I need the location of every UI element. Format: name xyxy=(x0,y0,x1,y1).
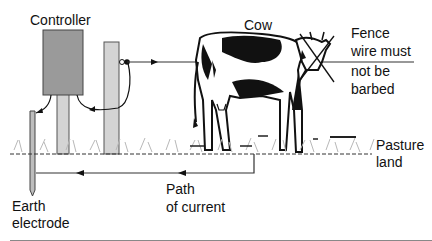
earth-label-line-2: electrode xyxy=(12,215,70,232)
pasture-label-line-2: land xyxy=(376,154,402,171)
path-label-line-2: of current xyxy=(166,199,225,216)
controller-box xyxy=(43,30,83,95)
path-label-line-1: Path xyxy=(166,181,195,198)
fence-note-line-1: Fence xyxy=(351,25,390,42)
current-return-path xyxy=(36,154,254,173)
fence-note-line-3: not be xyxy=(351,63,390,80)
fence-note-line-2: wire must xyxy=(351,43,411,60)
fence-lead-wire xyxy=(77,63,130,110)
pasture-label-line-1: Pasture xyxy=(376,137,424,154)
earth-label-line-1: Earth xyxy=(12,198,45,215)
arrowhead-icon xyxy=(36,108,43,113)
arrowhead-icon xyxy=(76,170,84,176)
cow-label: Cow xyxy=(244,17,272,34)
arrowhead-icon xyxy=(178,170,186,176)
fence-note-line-4: barbed xyxy=(351,81,395,98)
controller-post xyxy=(57,94,69,154)
cow-illustration xyxy=(193,32,330,152)
controller-label: Controller xyxy=(30,12,91,29)
fence-post xyxy=(104,42,119,154)
arrowhead-icon xyxy=(151,59,158,65)
insulator-icon xyxy=(120,60,125,65)
earth-lead-wire xyxy=(36,95,51,113)
